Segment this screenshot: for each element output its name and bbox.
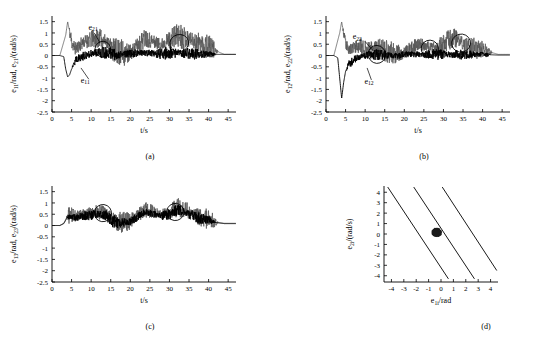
y-label-part: /(rad/s) [9, 205, 18, 228]
y-tick-label: -1.5 [37, 86, 49, 94]
y-tick-label: 0.5 [313, 41, 322, 49]
y-tick-label: 1.5 [313, 18, 322, 26]
y-axis-label: e11/rad, e21/(rad/s) [9, 35, 19, 93]
x-tick-label: 35 [460, 115, 468, 123]
sliding-line-2 [414, 187, 475, 279]
y-axis-label: e2i/(rad/s) [345, 218, 355, 249]
y-label-part: /rad, [9, 237, 18, 253]
series-group [52, 198, 236, 232]
sliding-line-3 [442, 187, 497, 270]
x-tick-label: 3 [476, 285, 480, 293]
x-tick-label: 25 [146, 115, 154, 123]
x-axis-label: t/s [414, 126, 422, 135]
x-tick-label: 0 [324, 115, 328, 123]
annotation-sub: 22 [356, 36, 362, 42]
panel-d: 43210-1-2-3-4-4-3-2-101234e1i/rade2i/(ra… [340, 178, 510, 318]
x-tick-label: 30 [166, 115, 174, 123]
y-tick-label: 0 [377, 231, 381, 239]
x-tick-label: 35 [186, 285, 194, 293]
panel-c-caption: (c) [130, 322, 170, 331]
y-tick-label: -4 [374, 272, 380, 280]
x-axis-label: t/s [140, 296, 148, 305]
y-tick-label: -2 [316, 97, 322, 105]
x-tick-label: 1 [452, 285, 456, 293]
y-tick-label: -2.5 [37, 109, 49, 117]
y-label-part: /(rad/s) [9, 35, 18, 58]
y-tick-label: -1.5 [311, 86, 323, 94]
panel-b-plot: 1.510.50-0.5-1-1.5-2-2.50510152025303540… [278, 8, 518, 148]
panel-c-plot: 1.510.50-0.5-1-1.5-2-2.50510152025303540… [4, 178, 244, 318]
y-tick-label: 1.5 [39, 188, 48, 196]
y-tick-label: 0 [319, 52, 323, 60]
annotation-sub: 21 [92, 26, 98, 32]
x-tick-label: -2 [413, 285, 419, 293]
x-tick-label: -3 [401, 285, 407, 293]
x-tick-label: -1 [426, 285, 432, 293]
x-tick-label: 15 [107, 115, 115, 123]
x-tick-label: 20 [401, 115, 409, 123]
y-label-part: /(rad/s) [283, 35, 292, 58]
panel-c: 1.510.50-0.5-1-1.5-2-2.50510152025303540… [4, 178, 244, 318]
y-tick-label: -0.5 [37, 233, 49, 241]
y-label-part: /rad, [283, 67, 292, 83]
annotation-sub: 11 [84, 79, 90, 85]
panel-b-caption: (b) [404, 152, 444, 161]
x-tick-label: 40 [205, 115, 213, 123]
y-tick-label: -1 [374, 241, 380, 249]
phase-group [388, 187, 497, 279]
y-label-part: /rad, [9, 67, 18, 83]
y-tick-label: -1.5 [37, 256, 49, 264]
panel-a: 1.510.50-0.5-1-1.5-2-2.50510152025303540… [4, 8, 244, 148]
panel-d-caption: (d) [466, 322, 506, 331]
x-tick-label: 15 [107, 285, 115, 293]
y-tick-label: 0 [45, 222, 49, 230]
y-tick-label: -2.5 [311, 109, 323, 117]
panel-d-plot: 43210-1-2-3-4-4-3-2-101234e1i/rade2i/(ra… [340, 178, 510, 318]
x-tick-label: 0 [50, 115, 54, 123]
y-tick-label: 1 [319, 30, 323, 38]
y-tick-label: -2 [42, 97, 48, 105]
y-tick-label: -2 [374, 251, 380, 259]
panel-a-caption: (a) [130, 152, 170, 161]
y-tick-label: -2 [42, 267, 48, 275]
y-tick-label: 3 [377, 199, 381, 207]
annotation-e12: e12 [364, 77, 373, 87]
x-tick-label: -4 [389, 285, 395, 293]
x-tick-label: 30 [166, 285, 174, 293]
x-label-part: /rad [439, 296, 451, 305]
x-tick-label: 20 [127, 115, 135, 123]
y-tick-label: 0.5 [39, 211, 48, 219]
annotation-e22: e22 [353, 32, 362, 42]
x-tick-label: 20 [127, 285, 135, 293]
y-tick-label: -1 [42, 75, 48, 83]
y-tick-label: -2.5 [37, 279, 49, 287]
x-tick-label: 40 [205, 285, 213, 293]
x-tick-label: 10 [362, 115, 370, 123]
y-tick-label: 1.5 [39, 18, 48, 26]
y-tick-label: -1 [316, 75, 322, 83]
x-tick-label: 45 [499, 115, 507, 123]
y-label-part: /(rad/s) [345, 218, 354, 241]
x-tick-label: 5 [70, 115, 74, 123]
x-axis-label: t/s [140, 126, 148, 135]
x-axis-label-rest: /s [416, 126, 421, 135]
series-e12 [326, 49, 510, 98]
series-e22 [326, 22, 510, 63]
x-tick-label: 2 [464, 285, 468, 293]
x-tick-label: 10 [88, 285, 96, 293]
x-tick-label: 45 [225, 285, 233, 293]
annotation-e21: e21 [89, 23, 98, 33]
x-tick-label: 5 [344, 115, 348, 123]
x-tick-label: 10 [88, 115, 96, 123]
x-tick-label: 15 [381, 115, 389, 123]
y-tick-label: 4 [377, 189, 381, 197]
annotation-e11: e11 [81, 76, 90, 86]
y-tick-label: -0.5 [311, 63, 323, 71]
x-tick-label: 25 [420, 115, 428, 123]
series-group [52, 22, 236, 77]
x-tick-label: 0 [50, 285, 54, 293]
x-tick-label: 45 [225, 115, 233, 123]
y-axis-label: e12/rad, e22/(rad/s) [283, 35, 293, 93]
annotation-sub: 12 [368, 80, 374, 86]
y-tick-label: 1 [45, 200, 49, 208]
